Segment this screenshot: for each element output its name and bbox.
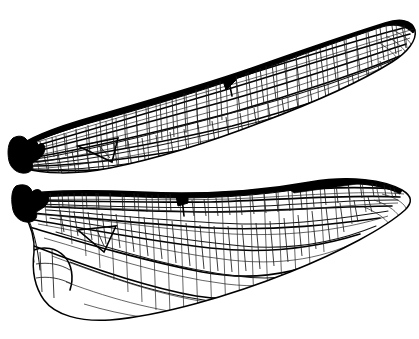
wing-plate-figure: Dragonfly wings [0, 0, 419, 339]
wing-illustration [0, 0, 419, 339]
